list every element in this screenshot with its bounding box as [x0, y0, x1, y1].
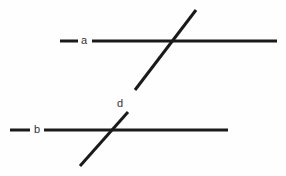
line-a-label: a [81, 34, 88, 46]
line-b-label: b [34, 123, 40, 135]
geometry-canvas: a b d [0, 0, 286, 176]
line-d-lower-segment [80, 112, 128, 166]
geometry-figure: a b d [0, 0, 286, 176]
line-d-label: d [117, 97, 123, 109]
line-d-upper-segment [135, 10, 196, 90]
